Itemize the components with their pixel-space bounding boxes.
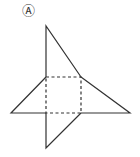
top-triangle-face: [46, 26, 81, 77]
bottom-triangle-face: [46, 113, 81, 148]
left-triangle-face: [11, 77, 46, 113]
pyramid-net-figure: [0, 0, 140, 157]
pyramid-net-diagram: Ⓐ: [0, 0, 140, 157]
square-base-fold-lines: [46, 77, 81, 113]
right-triangle-face: [81, 77, 130, 113]
